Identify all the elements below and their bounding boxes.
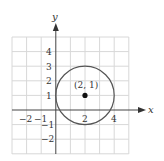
y-tick-label: 3 [46,62,52,72]
axes [12,28,142,154]
grid [12,37,129,154]
y-tick-label: 1 [46,91,52,101]
x-axis-arrow-icon [138,107,146,113]
point-label: (2, 1) [74,80,98,90]
coordinate-plane: x y −2 −1 2 4 4 3 2 1 −1 −2 (2, 1) [0,0,164,161]
y-tick-label: 2 [46,76,52,86]
y-tick-label: 4 [46,47,52,57]
x-tick-label: 2 [82,114,88,124]
y-tick-label: −2 [41,134,54,144]
x-tick-label: 4 [111,114,117,124]
x-axis-label: x [148,104,154,115]
y-axis-label: y [51,11,58,22]
center-point [82,93,87,98]
x-tick-label: −2 [19,114,32,124]
y-axis-arrow-icon [53,23,59,31]
y-tick-label: −1 [41,120,54,130]
